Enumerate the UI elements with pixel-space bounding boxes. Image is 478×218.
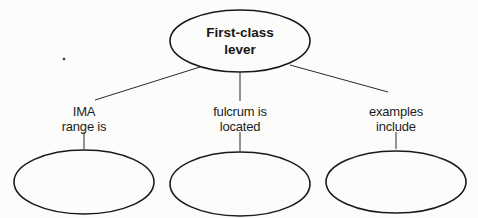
branch-label-line1: IMA: [62, 104, 107, 119]
branch-label-line2: range is: [62, 119, 107, 134]
branch-label-line2: include: [369, 119, 423, 134]
answer-ellipse-left[interactable]: [14, 150, 154, 214]
root-node-label: First-class lever: [206, 24, 274, 58]
root-label-line2: lever: [206, 41, 274, 58]
branch-label-examples: examples include: [369, 104, 423, 134]
branch-label-fulcrum-location: fulcrum is located: [213, 104, 267, 134]
answer-ellipse-right[interactable]: [326, 151, 466, 213]
branch-label-line2: located: [213, 119, 267, 134]
branch-label-line1: fulcrum is: [213, 104, 267, 119]
connector-root-right: [290, 65, 388, 92]
branch-label-line1: examples: [369, 104, 423, 119]
stray-dot: [63, 58, 66, 61]
root-label-line1: First-class: [206, 24, 274, 41]
connector-root-left: [95, 67, 200, 100]
concept-map-canvas: First-class lever IMA range is fulcrum i…: [0, 0, 478, 218]
answer-ellipse-middle[interactable]: [170, 152, 310, 216]
branch-label-ima-range: IMA range is: [62, 104, 107, 134]
